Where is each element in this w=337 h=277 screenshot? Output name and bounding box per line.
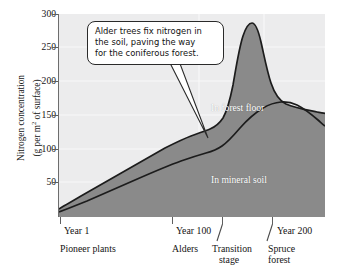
y-axis-tick-labels: 300 250 200 150 100 50	[28, 0, 56, 277]
y-axis-title-line1: Nitrogen concentration	[16, 75, 26, 161]
x-stage-alders: Alders	[172, 243, 198, 254]
callout-line-3: for the coniferous forest.	[95, 48, 217, 59]
x-label-year-1: Year 1	[64, 225, 89, 236]
x-tick-mark-year100	[172, 217, 173, 224]
x-stage-transition-line1: Transition	[212, 243, 252, 254]
x-stage-pioneer-plants: Pioneer plants	[60, 243, 116, 254]
nitrogen-succession-chart: Nitrogen concentration (g per m2 of surf…	[0, 0, 337, 277]
x-tick-mark-year1	[60, 217, 61, 224]
series-label-forest-floor: In forest floor	[211, 103, 264, 113]
x-tick-mark-transition	[222, 217, 223, 224]
callout-line-2: the soil, paving the way	[95, 37, 217, 48]
x-stage-spruce-line2: forest	[268, 254, 290, 265]
x-stage-spruce-line1: Spruce	[268, 243, 295, 254]
callout-line-1: Alder trees fix nitrogen in	[95, 26, 217, 37]
x-tick-mark-spruce	[272, 217, 273, 224]
series-label-mineral-soil: In mineral soil	[211, 175, 267, 185]
alder-callout-box: Alder trees fix nitrogen in the soil, pa…	[87, 21, 224, 65]
x-label-leader-lines	[205, 224, 280, 244]
x-label-year-200: Year 200	[277, 225, 312, 236]
x-stage-transition-line2: stage	[219, 254, 239, 265]
